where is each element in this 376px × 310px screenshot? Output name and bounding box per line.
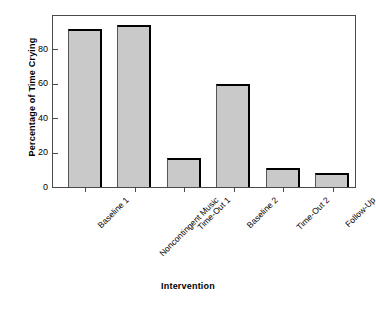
chart-figure: Percentage of Time Crying 0 20 40 60 80 [0, 0, 376, 310]
y-axis-title: Percentage of Time Crying [27, 7, 37, 187]
bar-baseline-1 [68, 29, 102, 187]
bar-noncontingent-music [117, 25, 151, 187]
y-tick-mark [53, 153, 58, 154]
plot-area: 0 20 40 60 80 [52, 15, 356, 188]
x-label-baseline-2: Baseline 2 [245, 195, 280, 230]
x-tick-mark [184, 187, 185, 192]
y-tick-label: 80 [38, 44, 48, 54]
bar-follow-up [315, 173, 349, 187]
bar-baseline-2 [216, 84, 250, 187]
x-tick-mark [333, 187, 334, 192]
x-tick-mark [135, 187, 136, 192]
y-tick-mark [53, 118, 58, 119]
y-tick-mark [53, 49, 58, 50]
y-tick-label: 20 [38, 147, 48, 157]
y-tick-label: 60 [38, 78, 48, 88]
x-label-baseline-1: Baseline 1 [96, 195, 131, 230]
y-tick-label: 40 [38, 113, 48, 123]
x-label-noncontingent-music: Noncontingent Music [157, 195, 220, 258]
y-tick-label: 0 [43, 182, 48, 192]
bar-time-out-1 [167, 158, 201, 187]
x-axis-title: Intervention [0, 281, 376, 291]
x-tick-mark [283, 187, 284, 192]
bar-time-out-2 [266, 168, 300, 187]
y-tick-mark [53, 84, 58, 85]
x-tick-mark [234, 187, 235, 192]
x-tick-mark [85, 187, 86, 192]
x-label-time-out-2: Time-Out 2 [294, 195, 331, 232]
y-tick-mark [53, 187, 58, 188]
x-label-follow-up: Follow-Up [343, 195, 376, 229]
